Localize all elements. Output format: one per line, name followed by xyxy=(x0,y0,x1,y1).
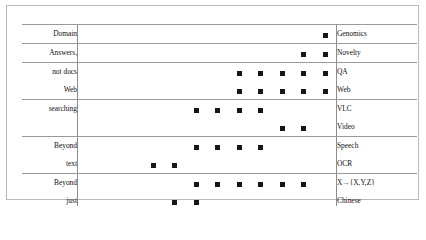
empty-cell xyxy=(108,200,113,205)
data-cell xyxy=(143,25,165,44)
data-marker xyxy=(301,71,306,76)
data-marker xyxy=(258,182,263,187)
data-cell xyxy=(186,100,208,119)
data-cell xyxy=(186,155,208,174)
data-cell xyxy=(207,155,229,174)
data-cell xyxy=(78,44,100,63)
data-marker xyxy=(323,33,328,38)
empty-cell xyxy=(86,33,91,38)
data-cell xyxy=(186,118,208,137)
empty-cell xyxy=(86,71,91,76)
data-marker xyxy=(258,145,263,150)
data-cell xyxy=(121,81,143,100)
data-marker xyxy=(258,108,263,113)
data-marker xyxy=(237,71,242,76)
data-cell xyxy=(207,81,229,100)
empty-cell xyxy=(129,33,134,38)
data-cell xyxy=(143,100,165,119)
empty-cell xyxy=(215,89,220,94)
empty-cell xyxy=(323,182,328,187)
empty-cell xyxy=(108,145,113,150)
data-cell xyxy=(164,81,186,100)
empty-cell xyxy=(172,145,177,150)
data-cell xyxy=(100,63,122,82)
data-cell xyxy=(78,63,100,82)
data-cell xyxy=(229,63,251,82)
table-row: Video xyxy=(22,118,417,137)
empty-cell xyxy=(108,108,113,113)
empty-cell xyxy=(323,126,328,131)
data-cell xyxy=(250,100,272,119)
data-marker xyxy=(280,71,285,76)
data-cell xyxy=(164,44,186,63)
data-cell xyxy=(272,137,294,156)
data-cell xyxy=(143,81,165,100)
row-label-right: Speech xyxy=(337,137,418,156)
data-cell xyxy=(272,63,294,82)
table-row: DomainGenomics xyxy=(22,25,417,44)
data-cell xyxy=(272,100,294,119)
data-cell xyxy=(250,63,272,82)
data-cell xyxy=(164,137,186,156)
empty-cell xyxy=(108,163,113,168)
data-cell xyxy=(186,63,208,82)
data-cell xyxy=(293,44,315,63)
data-cell xyxy=(143,63,165,82)
row-label-right: VLC xyxy=(337,100,418,119)
data-marker xyxy=(301,89,306,94)
data-cell xyxy=(164,100,186,119)
empty-cell xyxy=(323,108,328,113)
data-cell xyxy=(78,25,100,44)
row-label-right: Video xyxy=(337,118,418,137)
empty-cell xyxy=(215,52,220,57)
row-label-left: text xyxy=(22,155,78,174)
data-cell xyxy=(315,25,337,44)
empty-cell xyxy=(323,163,328,168)
empty-cell xyxy=(194,89,199,94)
data-marker xyxy=(194,200,199,205)
empty-cell xyxy=(258,200,263,205)
data-marker xyxy=(215,145,220,150)
empty-cell xyxy=(108,126,113,131)
row-label-left: Domain xyxy=(22,25,78,44)
data-cell xyxy=(229,174,251,193)
data-cell xyxy=(164,155,186,174)
row-label-right: Genomics xyxy=(337,25,418,44)
data-cell xyxy=(207,174,229,193)
empty-cell xyxy=(172,89,177,94)
empty-cell xyxy=(194,33,199,38)
empty-cell xyxy=(86,200,91,205)
empty-cell xyxy=(237,33,242,38)
data-cell xyxy=(315,155,337,174)
data-cell xyxy=(250,192,272,206)
empty-cell xyxy=(129,200,134,205)
data-cell xyxy=(143,155,165,174)
empty-cell xyxy=(194,163,199,168)
data-cell xyxy=(121,63,143,82)
data-cell xyxy=(315,81,337,100)
data-cell xyxy=(293,137,315,156)
data-cell xyxy=(272,155,294,174)
empty-cell xyxy=(215,33,220,38)
data-cell xyxy=(250,25,272,44)
data-cell xyxy=(186,25,208,44)
timeline-grid: DomainGenomicsAnswers,Noveltynot docsQAW… xyxy=(22,24,417,206)
empty-cell xyxy=(172,182,177,187)
data-cell xyxy=(293,192,315,206)
data-cell xyxy=(100,81,122,100)
empty-cell xyxy=(301,33,306,38)
empty-cell xyxy=(172,108,177,113)
data-cell xyxy=(315,63,337,82)
data-cell xyxy=(229,25,251,44)
empty-cell xyxy=(129,71,134,76)
data-marker xyxy=(194,108,199,113)
data-cell xyxy=(250,44,272,63)
empty-cell xyxy=(129,108,134,113)
data-cell xyxy=(186,192,208,206)
data-cell xyxy=(121,174,143,193)
empty-cell xyxy=(280,163,285,168)
data-cell xyxy=(78,100,100,119)
row-label-left: Web xyxy=(22,81,78,100)
empty-cell xyxy=(237,200,242,205)
data-marker xyxy=(237,145,242,150)
